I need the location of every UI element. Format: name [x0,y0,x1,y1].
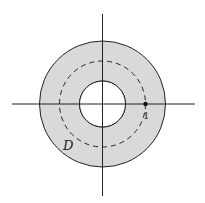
annulus-diagram: 1 D [0,0,205,203]
region-label: D [62,138,74,153]
point-label: 1 [143,110,149,121]
point-marker [143,102,147,106]
